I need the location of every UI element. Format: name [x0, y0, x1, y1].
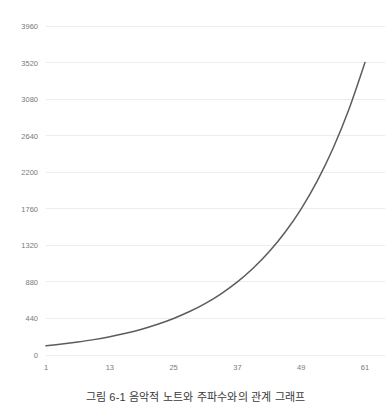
y-axis-tick-label: 2200: [21, 168, 38, 177]
y-axis-tick-label: 1320: [21, 241, 38, 250]
y-axis-tick-label: 0: [34, 351, 38, 360]
frequency-curve: [46, 63, 365, 346]
x-axis-tick-label: 49: [297, 363, 305, 372]
x-axis-tick-labels: 11325374961: [44, 363, 369, 372]
x-axis-tick-label: 61: [361, 363, 369, 372]
x-axis-tick-label: 37: [233, 363, 241, 372]
y-axis-tick-label: 440: [25, 314, 38, 323]
gridline-group: [46, 26, 385, 355]
x-axis-tick-label: 25: [169, 363, 177, 372]
y-axis-tick-label: 2640: [21, 132, 38, 141]
y-axis-tick-label: 1760: [21, 205, 38, 214]
x-axis-tick-label: 1: [44, 363, 48, 372]
x-axis-tick-label: 13: [106, 363, 114, 372]
figure-caption: 그림 6-1 음악적 노트와 주파수와의 관계 그래프: [0, 388, 391, 404]
y-axis-tick-label: 3080: [21, 95, 38, 104]
y-axis-tick-label: 3520: [21, 59, 38, 68]
y-axis-tick-label: 3960: [21, 22, 38, 31]
y-axis-tick-labels: 04408801320176022002640308035203960: [21, 22, 38, 360]
y-axis-tick-label: 880: [25, 278, 38, 287]
figure-container: 04408801320176022002640308035203960 1132…: [0, 0, 391, 418]
frequency-vs-note-line-chart: 04408801320176022002640308035203960 1132…: [0, 0, 391, 385]
